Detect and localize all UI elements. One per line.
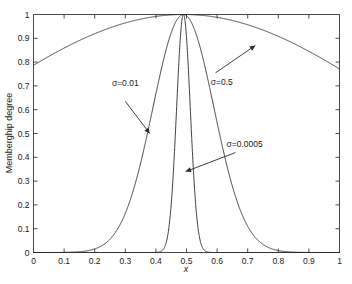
x-tick-label: 0 — [31, 256, 36, 266]
y-tick-label: 0.4 — [18, 152, 30, 162]
y-tick-label: 0.7 — [18, 81, 30, 91]
x-tick-label: 0.1 — [58, 256, 70, 266]
y-tick-label: 1 — [25, 10, 30, 20]
annotation-label-0: σ=0.5 — [211, 77, 233, 87]
x-tick-label: 0.7 — [242, 256, 254, 266]
y-tick-label: 0.1 — [18, 224, 30, 234]
y-axis-title: Memberghip degree — [4, 93, 14, 174]
annotation-label-2: σ=0.0005 — [227, 139, 263, 149]
y-tick-label: 0.8 — [18, 57, 30, 67]
figure-container: 00.10.20.30.40.50.60.70.80.91 00.10.20.3… — [0, 0, 352, 284]
x-axis-title: x — [183, 264, 189, 274]
y-tick-label: 0.3 — [18, 176, 30, 186]
y-tick-label: 0.5 — [18, 129, 30, 139]
x-tick-label: 0.8 — [272, 256, 284, 266]
gaussian-membership-chart: 00.10.20.30.40.50.60.70.80.91 00.10.20.3… — [0, 0, 352, 284]
y-tick-label: 0 — [25, 248, 30, 258]
x-tick-label: 0.3 — [119, 256, 131, 266]
chart-background — [0, 0, 352, 284]
x-tick-label: 0.6 — [211, 256, 223, 266]
y-tick-label: 0.6 — [18, 105, 30, 115]
x-tick-label: 0.9 — [303, 256, 315, 266]
annotation-label-1: σ=0.01 — [112, 78, 139, 88]
x-tick-label: 0.4 — [150, 256, 162, 266]
y-tick-label: 0.2 — [18, 200, 30, 210]
x-tick-label: 1 — [337, 256, 342, 266]
x-tick-label: 0.2 — [89, 256, 101, 266]
y-tick-label: 0.9 — [18, 33, 30, 43]
